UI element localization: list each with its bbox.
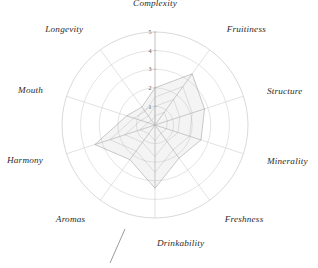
series-layer <box>95 74 205 188</box>
axis-label-harmony: Harmony <box>6 155 44 165</box>
axis-label-longevity: Longevity <box>44 24 84 34</box>
tick-label-2: 2 <box>149 85 152 91</box>
series-polygon <box>95 74 205 188</box>
axis-label-mouth: Mouth <box>17 85 43 95</box>
radar-chart-container: 1 2 3 4 5 Complexity Fruitiness Structur… <box>0 0 318 268</box>
tick-label-3: 3 <box>149 66 152 72</box>
radar-chart-svg: 1 2 3 4 5 Complexity Fruitiness Structur… <box>0 0 318 268</box>
drinkability-leader-line <box>110 229 125 263</box>
axis-label-drinkability: Drinkability <box>156 238 205 248</box>
tick-label-1: 1 <box>149 104 152 110</box>
axis-label-structure: Structure <box>267 86 303 96</box>
axis-label-fruitiness: Fruitiness <box>226 24 266 34</box>
axis-label-freshness: Freshness <box>224 214 264 224</box>
axis-label-aromas: Aromas <box>55 214 86 224</box>
axis-label-complexity: Complexity <box>133 0 178 8</box>
tick-label-4: 4 <box>149 48 152 54</box>
axis-label-minerality: Minerality <box>266 156 309 166</box>
tick-label-5: 5 <box>149 29 152 35</box>
